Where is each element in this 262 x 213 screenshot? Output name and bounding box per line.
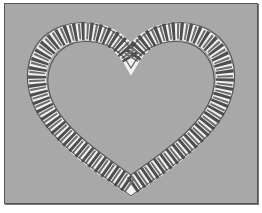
heart-wreath-illustration [0,0,262,213]
